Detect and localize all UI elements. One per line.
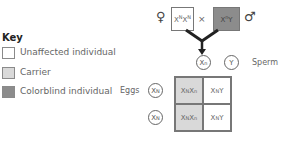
male-symbol-icon: ♂ — [244, 9, 256, 24]
male-genotype: XnY — [220, 14, 232, 24]
sperm-label: Sperm — [252, 58, 278, 67]
colorblind-swatch — [2, 86, 15, 98]
unaffected-swatch — [2, 47, 15, 59]
carrier-swatch — [2, 67, 15, 79]
offspring-cell-2-2: XNY — [203, 104, 231, 131]
female-genotype: XNXN — [174, 14, 191, 24]
egg-gamete-1: XN — [148, 83, 163, 98]
female-symbol-icon: ♀ — [156, 9, 166, 24]
sperm-gamete-y: Y — [224, 55, 239, 70]
colorblind-label: Colorblind individual — [20, 86, 112, 96]
offspring-cell-1-2: XNY — [203, 77, 231, 104]
carrier-label: Carrier — [20, 67, 51, 77]
eggs-label: Eggs — [120, 86, 139, 95]
sperm-gamete-xn: Xn — [196, 55, 211, 70]
egg-gamete-2: XN — [148, 110, 163, 125]
cross-arrow-icon — [180, 28, 224, 56]
unaffected-label: Unaffected individual — [20, 47, 116, 57]
offspring-cell-2-1: XNXn — [175, 104, 203, 131]
key-title: Key — [2, 32, 23, 43]
punnett-square: XNXn XNY XNXn XNY — [174, 76, 232, 132]
offspring-cell-1-1: XNXn — [175, 77, 203, 104]
cross-symbol: × — [198, 14, 206, 24]
